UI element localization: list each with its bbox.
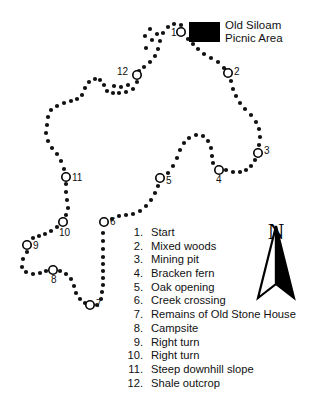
trail-dot xyxy=(238,170,242,174)
legend-item-number: 3. xyxy=(126,253,143,265)
trail-marker-label-9: 9 xyxy=(33,240,39,251)
trail-dot xyxy=(72,284,76,288)
trail-dot xyxy=(25,250,29,254)
legend-row: 9.Right turn xyxy=(126,336,301,350)
trail-dot xyxy=(244,168,248,172)
trail-marker-label-4: 4 xyxy=(216,174,222,185)
trail-dot xyxy=(156,47,160,51)
legend-row: 7.Remains of Old Stone House xyxy=(126,308,301,322)
trail-dot xyxy=(59,159,63,163)
trail-dot xyxy=(150,38,154,42)
trail-dot xyxy=(102,83,106,87)
trail-dot xyxy=(101,269,105,273)
trail-dot xyxy=(229,79,233,83)
legend-item-number: 10. xyxy=(126,349,143,361)
trail-dot xyxy=(234,94,238,98)
trail-marker-label-2: 2 xyxy=(234,66,240,77)
trail-dot xyxy=(209,146,213,150)
trail-dot xyxy=(24,270,28,274)
trail-dot xyxy=(75,97,79,101)
trail-dot xyxy=(58,269,62,273)
trail-dot xyxy=(50,146,54,150)
legend-row: 8.Campsite xyxy=(126,322,301,336)
legend-item-label: Mining pit xyxy=(151,253,199,265)
trail-dot xyxy=(166,25,170,29)
legend-item-label: Right turn xyxy=(151,336,200,348)
trail-marker-3[interactable] xyxy=(254,149,262,157)
trail-dot xyxy=(253,158,257,162)
trail-dot xyxy=(64,272,68,276)
trail-marker-9[interactable] xyxy=(23,241,31,249)
trail-marker-2[interactable] xyxy=(224,69,232,77)
trail-marker-1[interactable] xyxy=(177,28,185,36)
trail-marker-6[interactable] xyxy=(100,218,108,226)
trail-marker-5[interactable] xyxy=(156,174,164,182)
trail-dot xyxy=(101,276,105,280)
trail-dot xyxy=(38,271,42,275)
trail-marker-12[interactable] xyxy=(133,71,141,79)
trail-dot xyxy=(119,85,123,89)
trail-dot xyxy=(46,139,50,143)
legend-item-label: Shale outcrop xyxy=(151,377,220,389)
trail-dot xyxy=(78,297,82,301)
trail-dot xyxy=(257,127,261,131)
legend-item-number: 6. xyxy=(126,294,143,306)
trail-marker-8[interactable] xyxy=(49,266,57,274)
trail-dot xyxy=(153,54,157,58)
trail-dot xyxy=(171,164,175,168)
trail-dot xyxy=(175,156,179,160)
trail-dot xyxy=(144,46,148,50)
trail-dot xyxy=(258,135,262,139)
legend-item-label: Start xyxy=(151,226,175,238)
trail-marker-label-5: 5 xyxy=(166,175,172,186)
trail-dot xyxy=(257,143,261,147)
trail-dot xyxy=(179,23,183,27)
trail-dot xyxy=(156,184,160,188)
trail-dot xyxy=(148,27,152,31)
legend-row: 12.Shale outcrop xyxy=(126,377,301,391)
trail-marker-label-1: 1 xyxy=(171,27,177,38)
trail-marker-4[interactable] xyxy=(215,166,223,174)
trail-dot xyxy=(231,170,235,174)
legend-item-label: Remains of Old Stone House xyxy=(151,308,296,320)
trail-dot xyxy=(64,213,68,217)
trail-dot xyxy=(209,56,213,60)
trail-dot xyxy=(143,34,147,38)
trail-dot xyxy=(31,272,35,276)
trail-dot xyxy=(206,139,210,143)
trail-dot xyxy=(149,198,153,202)
trail-marker-label-7: 7 xyxy=(96,298,102,309)
trail-dot xyxy=(254,120,258,124)
trail-marker-label-10: 10 xyxy=(59,227,71,238)
trail-map: 123456789101112 Old Siloam Picnic Area 1… xyxy=(0,0,315,411)
legend-item-label: Steep downhill slope xyxy=(151,363,254,375)
trail-dot xyxy=(64,190,68,194)
legend-item-number: 7. xyxy=(126,308,143,320)
trail-dot xyxy=(69,99,73,103)
trail-dot xyxy=(138,209,142,213)
legend-item-number: 1. xyxy=(126,226,143,238)
trail-dot xyxy=(194,133,198,137)
trail-dot xyxy=(20,265,24,269)
legend-item-label: Campsite xyxy=(151,322,198,334)
north-arrow-icon xyxy=(252,222,300,304)
legend-item-number: 4. xyxy=(126,267,143,279)
trail-dot xyxy=(105,89,109,93)
trail-dot xyxy=(155,32,159,36)
trail-marker-7[interactable] xyxy=(86,301,94,309)
trail-dot xyxy=(101,262,105,266)
trail-dot xyxy=(131,212,135,216)
trail-dot xyxy=(182,141,186,145)
trail-dot xyxy=(65,198,69,202)
legend-item-label: Bracken fern xyxy=(151,267,214,279)
trail-marker-label-8: 8 xyxy=(51,274,57,285)
trail-marker-11[interactable] xyxy=(62,173,70,181)
trail-marker-10[interactable] xyxy=(59,218,67,226)
trail-dot xyxy=(148,60,152,64)
trail-dot xyxy=(83,86,87,90)
trail-dot xyxy=(144,204,148,208)
trail-dot xyxy=(124,213,128,217)
trail-dot xyxy=(64,182,68,186)
trail-dot xyxy=(21,257,25,261)
trail-dot xyxy=(124,90,128,94)
